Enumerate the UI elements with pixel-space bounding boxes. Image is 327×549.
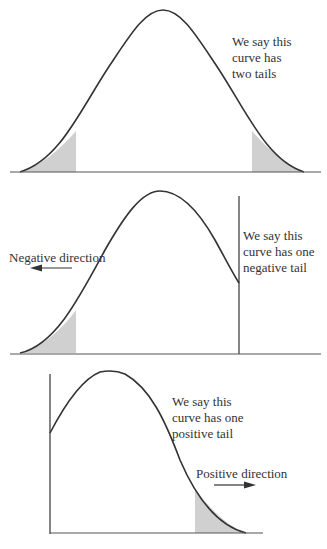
annotation-positive-tail: We say this curve has one positive tail (172, 394, 243, 442)
positive-arrow-head (244, 482, 256, 489)
negative-direction-label: Negative direction (9, 250, 105, 266)
left-tail-shade (20, 131, 76, 172)
annotation-negative-tail: We say this curve has one negative tail (243, 228, 314, 276)
left-tail-shade (20, 310, 76, 353)
right-tail-shade (195, 489, 246, 533)
annotation-two-tails: We say this curve has two tails (232, 34, 292, 82)
right-tail-shade (252, 131, 304, 172)
positive-direction-label: Positive direction (196, 466, 287, 482)
negative-curve (20, 191, 239, 353)
